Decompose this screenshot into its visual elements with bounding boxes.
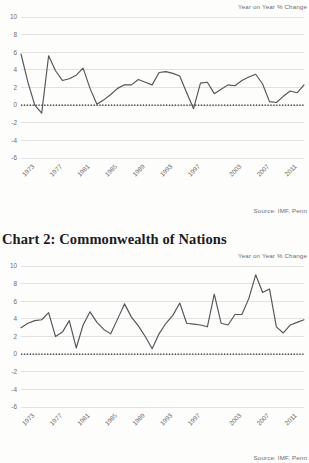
- y-axis-tick-label: 10: [10, 262, 18, 269]
- y-axis-tick-label: 6: [13, 298, 17, 305]
- x-axis-tick-label: 2011: [283, 411, 298, 426]
- chart-1-axis-note: Year on Year % Change: [238, 3, 307, 10]
- y-axis-tick-label: 8: [13, 280, 17, 287]
- y-axis-tick-label: 8: [13, 31, 17, 38]
- y-axis-tick-label: 4: [13, 66, 17, 73]
- y-axis-tick-label: 2: [13, 84, 17, 91]
- chart-2-title: Chart 2: Commonwealth of Nations: [0, 228, 309, 250]
- x-axis-tick-label: 1985: [103, 411, 118, 426]
- x-axis-tick-label: 1989: [131, 162, 146, 177]
- data-series-line: [21, 54, 304, 113]
- chart-panel-2: Chart 2: Commonwealth of Nations Year on…: [0, 228, 309, 463]
- y-axis-tick-label: 2: [13, 333, 17, 340]
- chart-1-svg: 1086420-2-4-6197319771981198519891993199…: [0, 11, 309, 206]
- x-axis-tick-label: 1997: [186, 162, 201, 177]
- x-axis-tick-label: 2007: [255, 411, 270, 426]
- y-axis-tick-label: 0: [13, 101, 17, 108]
- x-axis-tick-label: 1981: [76, 162, 91, 177]
- y-axis-tick-label: 10: [10, 13, 18, 20]
- x-axis-tick-label: 1973: [21, 162, 36, 177]
- chart-1-source-note: Source: IMF, Penn: [254, 207, 307, 214]
- chart-2-axis-note: Year on Year % Change: [238, 252, 307, 259]
- y-axis-tick-label: -2: [11, 368, 17, 375]
- y-axis-tick-label: -6: [11, 403, 17, 410]
- y-axis-tick-label: 6: [13, 49, 17, 56]
- y-axis-tick-label: -4: [11, 386, 17, 393]
- x-axis-tick-label: 1977: [48, 162, 63, 177]
- y-axis-tick-label: -4: [11, 137, 17, 144]
- x-axis-tick-label: 1973: [21, 411, 36, 426]
- x-axis-tick-label: 1993: [159, 162, 174, 177]
- x-axis-tick-label: 2003: [228, 411, 243, 426]
- x-axis-tick-label: 1993: [159, 411, 174, 426]
- y-axis-tick-label: -6: [11, 154, 17, 161]
- x-axis-tick-label: 1977: [48, 411, 63, 426]
- x-axis-tick-label: 1981: [76, 411, 91, 426]
- y-axis-tick-label: 0: [13, 350, 17, 357]
- chart-page: Year on Year % Change 1086420-2-4-619731…: [0, 0, 309, 463]
- chart-1-plot-area: 1086420-2-4-6197319771981198519891993199…: [0, 11, 309, 206]
- x-axis-tick-label: 2003: [228, 162, 243, 177]
- chart-2-source-note: Source: IMF, Penn: [254, 454, 307, 461]
- x-axis-tick-label: 2011: [283, 162, 298, 177]
- y-axis-tick-label: 4: [13, 315, 17, 322]
- chart-panel-1: Year on Year % Change 1086420-2-4-619731…: [0, 0, 309, 228]
- y-axis-tick-label: -2: [11, 119, 17, 126]
- data-series-line: [21, 275, 304, 349]
- chart-2-plot-area: 1086420-2-4-6197319771981198519891993199…: [0, 260, 309, 455]
- x-axis-tick-label: 1989: [131, 411, 146, 426]
- x-axis-tick-label: 2007: [255, 162, 270, 177]
- x-axis-tick-label: 1997: [186, 411, 201, 426]
- x-axis-tick-label: 1985: [103, 162, 118, 177]
- chart-2-svg: 1086420-2-4-6197319771981198519891993199…: [0, 260, 309, 455]
